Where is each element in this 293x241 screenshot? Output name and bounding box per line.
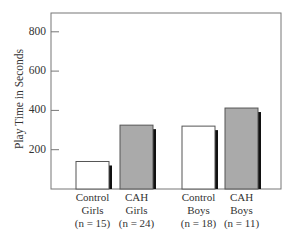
category-label-line: CAH: [112, 191, 162, 204]
category-label-line: Control: [68, 191, 118, 204]
x-category-label: CAHBoys(n = 11): [217, 191, 267, 230]
x-category-label: CAHGirls(n = 24): [112, 191, 162, 230]
bar: [76, 161, 109, 189]
category-label-line: (n = 11): [217, 217, 267, 230]
category-label-line: (n = 15): [68, 217, 118, 230]
y-axis-label: Play Time in Seconds: [13, 39, 27, 159]
bar-chart: Play Time in Seconds 200400600800 Contro…: [0, 0, 293, 241]
y-tick-label: 200: [16, 143, 46, 155]
y-tick-label: 600: [16, 64, 46, 76]
bar: [182, 126, 215, 189]
category-label-line: (n = 24): [112, 217, 162, 230]
y-tick-label: 400: [16, 103, 46, 115]
x-category-label: ControlGirls(n = 15): [68, 191, 118, 230]
y-tick-label: 800: [16, 25, 46, 37]
category-label-line: Girls: [112, 204, 162, 217]
bar: [120, 125, 153, 189]
category-label-line: CAH: [217, 191, 267, 204]
bar: [225, 108, 258, 189]
category-label-line: Boys: [217, 204, 267, 217]
category-label-line: Girls: [68, 204, 118, 217]
